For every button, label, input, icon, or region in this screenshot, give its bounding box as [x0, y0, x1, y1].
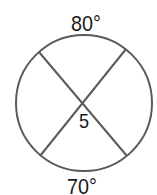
- top-arc-label: 80°: [71, 11, 101, 35]
- circle-chord-diagram: 80° 5 70°: [0, 0, 157, 195]
- angle-label: 5: [79, 110, 89, 132]
- circle: [16, 35, 152, 171]
- bottom-arc-label: 70°: [67, 174, 97, 195]
